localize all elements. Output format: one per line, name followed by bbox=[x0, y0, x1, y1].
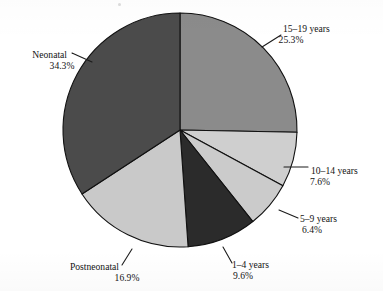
slice-label: 10–14 years bbox=[311, 165, 358, 176]
pie-slice bbox=[180, 13, 297, 132]
scan-speck bbox=[118, 3, 121, 6]
slice-percentage: 25.3% bbox=[279, 34, 304, 45]
slice-percentage: 9.6% bbox=[233, 270, 253, 281]
slice-leader-line bbox=[279, 210, 298, 218]
slice-percentage: 6.4% bbox=[302, 224, 322, 235]
slice-percentage: 7.6% bbox=[310, 176, 330, 187]
slice-leader-line bbox=[223, 247, 232, 263]
pie-chart-figure: 15–19 years25.3%10–14 years7.6%5–9 years… bbox=[0, 0, 383, 291]
slice-percentage: 34.3% bbox=[50, 60, 75, 71]
pie-slices-group bbox=[63, 13, 297, 247]
pie-chart-canvas: 15–19 years25.3%10–14 years7.6%5–9 years… bbox=[0, 0, 383, 291]
slice-label: 1–4 years bbox=[232, 259, 269, 270]
slice-label: Neonatal bbox=[32, 49, 67, 60]
slice-label: 15–19 years bbox=[283, 23, 330, 34]
slice-leader-line bbox=[122, 249, 132, 265]
slice-percentage: 16.9% bbox=[115, 272, 140, 283]
slice-label: Postneonatal bbox=[70, 261, 119, 272]
slice-label: 5–9 years bbox=[300, 213, 337, 224]
